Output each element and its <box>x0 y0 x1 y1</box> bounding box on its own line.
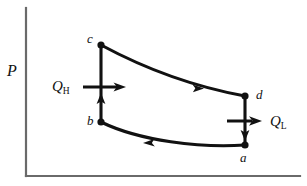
heat-in-subscript: H <box>63 86 70 96</box>
heat-out-label: QL <box>270 114 287 129</box>
heat-out-subscript: L <box>281 121 287 131</box>
axis-label-pressure: P <box>7 63 17 79</box>
pv-cycle-figure: P c b d a QH QL <box>0 0 307 186</box>
heat-in-arrow-group <box>83 82 126 91</box>
state-dot-a <box>241 141 248 148</box>
heat-in-label: QH <box>52 79 70 94</box>
direction-arrowhead-a-to-b <box>143 139 155 147</box>
state-label-c: c <box>87 32 93 45</box>
cycle-paths-group <box>101 45 245 146</box>
heat-in-symbol: Q <box>52 78 63 94</box>
cycle-direction-arrows-group <box>97 85 250 147</box>
state-label-d: d <box>256 88 263 101</box>
state-dot-d <box>241 92 248 99</box>
process-path-a-to-b <box>101 122 245 146</box>
state-label-b: b <box>87 114 94 127</box>
state-dot-b <box>97 118 104 125</box>
process-path-c-to-d <box>101 45 245 96</box>
heat-out-symbol: Q <box>270 113 281 129</box>
state-dot-c <box>97 41 104 48</box>
state-dots-group <box>97 41 248 148</box>
state-label-a: a <box>240 151 247 164</box>
